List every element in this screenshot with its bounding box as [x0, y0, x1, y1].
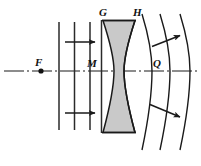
- label-lens-back-surface: H: [133, 7, 142, 18]
- spherical-wavefront-group: [142, 14, 190, 150]
- label-focal-point: F: [35, 57, 42, 68]
- focal-point-marker: [38, 68, 43, 73]
- label-emergent-wavefront: Q: [153, 58, 161, 69]
- figure-canvas: [0, 0, 201, 166]
- spherical-wavefront-1: [142, 14, 152, 150]
- spherical-wavefront-2: [160, 14, 170, 150]
- label-incident-wavefront: M: [87, 58, 97, 69]
- spherical-wavefront-3: [180, 14, 190, 150]
- plane-wavefront-group: [59, 22, 90, 130]
- label-lens-front-surface: G: [99, 7, 107, 18]
- emergent-ray-arrow-lower: [150, 105, 180, 118]
- optics-wavefront-figure: F M G H Q: [0, 0, 201, 166]
- diverging-lens: [102, 20, 137, 133]
